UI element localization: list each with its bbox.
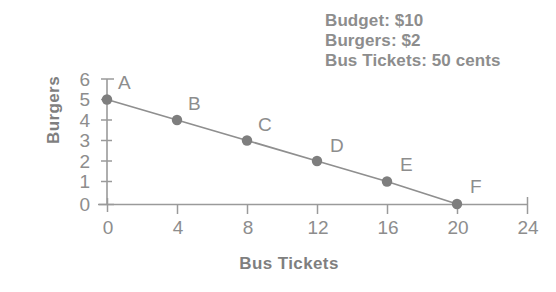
data-point-label-c: C bbox=[258, 115, 272, 134]
y-tick-label-3: 3 bbox=[64, 131, 90, 150]
x-tick-label-24: 24 bbox=[508, 218, 548, 237]
x-tick-label-8: 8 bbox=[228, 218, 268, 237]
data-point-d[interactable] bbox=[312, 156, 322, 166]
data-point-b[interactable] bbox=[172, 115, 182, 125]
data-line-budget-constraint bbox=[107, 100, 457, 205]
x-tick-label-16: 16 bbox=[368, 218, 408, 237]
data-point-e[interactable] bbox=[382, 176, 392, 186]
y-tick-label-0: 0 bbox=[64, 195, 90, 214]
data-point-markers bbox=[102, 94, 462, 209]
data-point-label-d: D bbox=[330, 136, 344, 155]
data-point-label-f: F bbox=[470, 177, 482, 196]
y-tick-label-4: 4 bbox=[64, 111, 90, 130]
data-point-label-a: A bbox=[118, 73, 131, 92]
y-tick-label-1: 1 bbox=[64, 172, 90, 191]
annotation-budget: Budget: $10 bbox=[325, 11, 501, 31]
y-tick-label-5: 5 bbox=[64, 90, 90, 109]
chart-annotation-block: Budget: $10 Burgers: $2 Bus Tickets: 50 … bbox=[325, 11, 501, 71]
x-axis-title-text: Bus Tickets bbox=[217, 254, 339, 273]
x-tick-marks bbox=[108, 197, 528, 214]
chart-canvas: Budget: $10 Burgers: $2 Bus Tickets: 50 … bbox=[0, 0, 556, 292]
data-point-f[interactable] bbox=[452, 199, 462, 209]
x-tick-label-20: 20 bbox=[438, 218, 478, 237]
annotation-bus-ticket-price: Bus Tickets: 50 cents bbox=[325, 51, 501, 71]
y-tick-label-2: 2 bbox=[64, 152, 90, 171]
y-tick-label-6: 6 bbox=[64, 70, 90, 89]
data-point-a[interactable] bbox=[102, 94, 112, 104]
x-tick-label-4: 4 bbox=[158, 218, 198, 237]
annotation-burgers-price: Burgers: $2 bbox=[325, 31, 501, 51]
y-axis-title: Burgers bbox=[44, 70, 64, 150]
x-tick-label-12: 12 bbox=[298, 218, 338, 237]
data-point-c[interactable] bbox=[242, 135, 252, 145]
data-point-label-e: E bbox=[400, 155, 413, 174]
x-axis-title: Bus Tickets bbox=[0, 254, 556, 274]
data-point-label-b: B bbox=[188, 94, 201, 113]
x-tick-label-0: 0 bbox=[88, 218, 128, 237]
